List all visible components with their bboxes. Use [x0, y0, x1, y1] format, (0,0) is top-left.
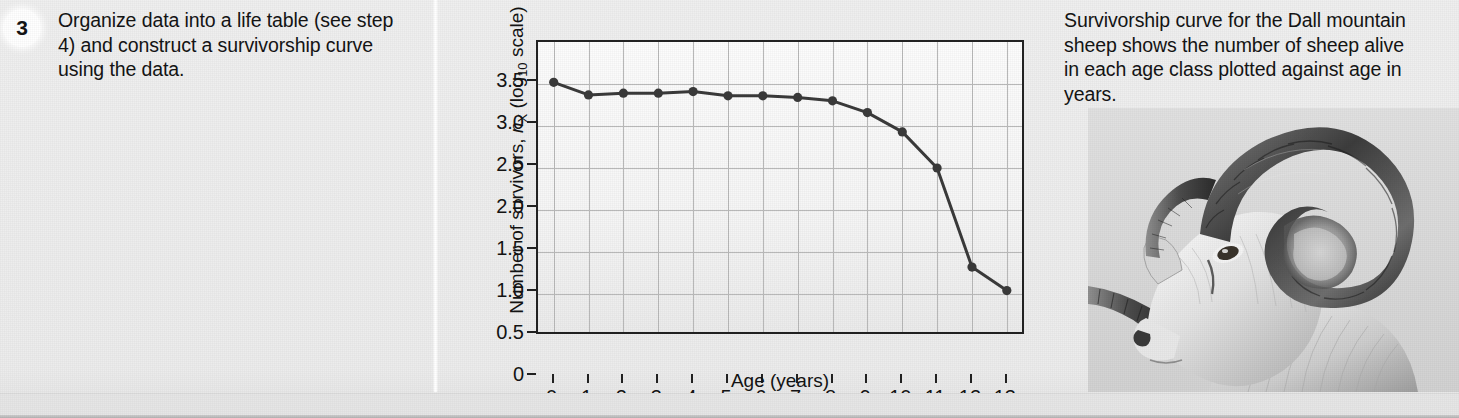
- data-point: [828, 96, 837, 105]
- y-axis-title-tail: scale): [506, 6, 527, 62]
- caption-panel: Survivorship curve for the Dall mountain…: [1060, 0, 1459, 392]
- data-point: [758, 91, 767, 100]
- data-point: [654, 89, 663, 98]
- y-tick-mark: [527, 331, 536, 333]
- y-tick-label: 1.0: [476, 279, 524, 302]
- data-point: [549, 78, 558, 87]
- data-point: [584, 90, 593, 99]
- figure-page: 3 Organize data into a life table (see s…: [0, 0, 1459, 418]
- data-point: [1002, 286, 1011, 295]
- data-point: [793, 93, 802, 102]
- step-number-badge: 3: [3, 9, 41, 47]
- dall-sheep-illustration: [1088, 108, 1459, 392]
- survivorship-line: [554, 82, 1007, 290]
- y-tick-mark: [527, 205, 536, 207]
- y-tick-label: 2.0: [476, 195, 524, 218]
- y-tick-mark: [527, 79, 536, 81]
- y-tick-mark: [527, 247, 536, 249]
- figure-caption: Survivorship curve for the Dall mountain…: [1064, 8, 1424, 106]
- dall-sheep-photo: [1088, 108, 1459, 392]
- plot-wrapper: 00.51.01.52.02.53.03.5 01234567891011121…: [536, 40, 1024, 334]
- data-point: [933, 163, 942, 172]
- panel-divider: [434, 0, 437, 392]
- y-tick-mark: [527, 373, 536, 375]
- step-description: Organize data into a life table (see ste…: [58, 8, 413, 82]
- data-point: [967, 263, 976, 272]
- y-tick-mark: [527, 289, 536, 291]
- data-point: [689, 87, 698, 96]
- plot-area: [536, 40, 1024, 334]
- y-tick-label: 0: [476, 363, 524, 386]
- y-tick-label: 0.5: [476, 321, 524, 344]
- y-tick-label: 3.0: [476, 111, 524, 134]
- x-axis-title: Age (years): [536, 370, 1024, 392]
- data-point: [863, 108, 872, 117]
- survivorship-chart: Number of survivors, nX (log10 scale) 00…: [452, 0, 1052, 392]
- survivorship-line-series: [538, 42, 1026, 336]
- step-panel: 3 Organize data into a life table (see s…: [0, 0, 434, 392]
- data-point: [723, 91, 732, 100]
- y-tick-mark: [527, 121, 536, 123]
- y-tick-label: 2.5: [476, 153, 524, 176]
- data-point: [619, 89, 628, 98]
- data-point: [898, 127, 907, 136]
- y-tick-mark: [527, 163, 536, 165]
- y-tick-label: 3.5: [476, 69, 524, 92]
- y-tick-label: 1.5: [476, 237, 524, 260]
